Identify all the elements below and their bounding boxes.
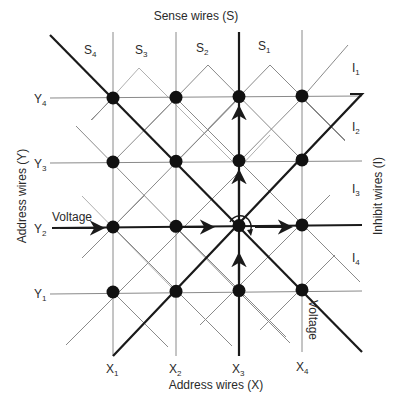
diag-dr-7 xyxy=(239,292,290,343)
y-label-3: Y3 xyxy=(34,157,47,173)
ferrite-core xyxy=(296,153,309,166)
diag-ur-1 xyxy=(66,172,239,345)
ferrite-core xyxy=(233,154,246,167)
ferrite-core xyxy=(296,283,309,296)
y-label-1: Y1 xyxy=(34,287,47,303)
y-label-2: Y2 xyxy=(34,222,47,238)
x-label-3: X3 xyxy=(232,362,245,378)
current-arrows xyxy=(60,108,290,280)
ferrite-core xyxy=(107,286,120,299)
ferrite-core xyxy=(107,92,120,105)
core-memory-diagram: Sense wires (S) Address wires (X) Addres… xyxy=(0,0,396,406)
address-y-title: Address wires (Y) xyxy=(15,149,29,244)
ferrite-core xyxy=(233,219,246,232)
sense-label-4: S4 xyxy=(84,43,97,59)
diag-ur-9 xyxy=(239,98,302,162)
diag-dr-1 xyxy=(76,126,239,292)
sense-wire-s3-upper xyxy=(92,68,270,168)
ferrite-core xyxy=(170,91,183,104)
inhibit-label-1: I1 xyxy=(352,61,360,77)
diag-dr-3 xyxy=(113,292,168,347)
sense-wires-title: Sense wires (S) xyxy=(154,9,239,23)
y-label-4: Y4 xyxy=(34,92,47,108)
y-wire-3 xyxy=(50,161,362,163)
ferrite-core xyxy=(296,218,309,231)
inhibit-label-4: I4 xyxy=(352,251,360,267)
sense-wire-s1-upper xyxy=(207,65,345,140)
sense-label-2: S2 xyxy=(196,41,209,57)
voltage-label-y: Voltage xyxy=(52,210,92,224)
ferrite-core xyxy=(107,156,120,169)
y-wire-1 xyxy=(50,291,362,294)
ferrite-core xyxy=(233,90,246,103)
address-x-title: Address wires (X) xyxy=(169,378,264,392)
ferrite-core xyxy=(296,89,309,102)
voltage-label-x: Voltage xyxy=(306,300,320,340)
inhibit-label-2: I2 xyxy=(352,120,360,136)
y-wire-4 xyxy=(50,96,362,98)
sense-label-1: S1 xyxy=(258,39,271,55)
inhibit-label-3: I3 xyxy=(352,182,360,198)
inhibit-wires-title: Inhibit wires (I) xyxy=(371,157,385,235)
sense-label-3: S3 xyxy=(135,43,148,59)
ferrite-core xyxy=(107,221,120,234)
x-label-2: X2 xyxy=(169,362,182,378)
ferrite-core xyxy=(170,220,183,233)
ferrite-core xyxy=(170,155,183,168)
inhibit-wire-i1 xyxy=(302,45,348,98)
x-label-1: X1 xyxy=(106,362,119,378)
ferrite-core xyxy=(233,284,246,297)
ferrite-core xyxy=(170,285,183,298)
x-label-4: X4 xyxy=(296,360,309,376)
